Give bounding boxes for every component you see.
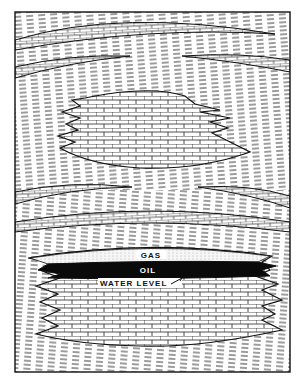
water-level-label: WATER LEVEL <box>100 279 167 288</box>
oil-label: OIL <box>140 266 156 275</box>
stratigraphic-trap-diagram: GAS OIL WATER LEVEL <box>0 0 304 384</box>
gas-label: GAS <box>141 251 161 260</box>
oil-zone <box>38 261 276 278</box>
